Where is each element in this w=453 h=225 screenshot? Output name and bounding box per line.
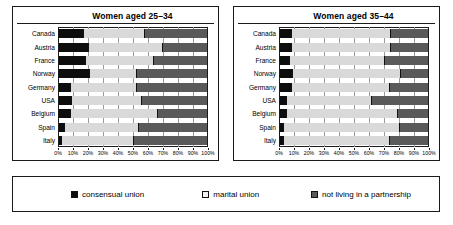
stacked-bar bbox=[59, 43, 207, 52]
bar-segment bbox=[59, 69, 90, 78]
category-label: Italy bbox=[214, 136, 276, 145]
bar-segment bbox=[59, 109, 71, 118]
bar-row: Norway bbox=[280, 69, 428, 78]
chart-panel-women-35-44: Women aged 35–44 CanadaAustriaFranceNorw… bbox=[233, 6, 440, 161]
bar-segment bbox=[84, 29, 145, 38]
category-label: Germany bbox=[214, 83, 276, 92]
stacked-bar bbox=[59, 96, 207, 105]
bar-row: USA bbox=[280, 96, 428, 105]
category-label: Canada bbox=[214, 29, 276, 38]
stacked-bar bbox=[59, 123, 207, 132]
x-tick-label: 80% bbox=[173, 150, 183, 157]
bar-segment bbox=[62, 136, 135, 145]
x-tick-label: 20% bbox=[304, 150, 314, 157]
bar-segment bbox=[284, 136, 389, 145]
bar-segment bbox=[154, 56, 207, 65]
bar-segment bbox=[65, 123, 139, 132]
stacked-bar bbox=[280, 123, 428, 132]
x-tick-label: 60% bbox=[143, 150, 153, 157]
figure: Women aged 25–34 CanadaAustriaFranceNorw… bbox=[0, 0, 453, 225]
bar-segment bbox=[292, 29, 391, 38]
bar-row: Canada bbox=[280, 29, 428, 38]
x-tick-label: 40% bbox=[334, 150, 344, 157]
bar-row: Spain bbox=[59, 123, 207, 132]
bar-row: Germany bbox=[280, 83, 428, 92]
bar-segment bbox=[292, 83, 390, 92]
bar-segment bbox=[287, 96, 371, 105]
category-label: Germany bbox=[0, 83, 55, 92]
x-tick-label: 80% bbox=[394, 150, 404, 157]
bar-segment bbox=[280, 109, 287, 118]
stacked-bar bbox=[59, 109, 207, 118]
bar-segment bbox=[385, 56, 428, 65]
bar-segment bbox=[89, 43, 163, 52]
x-tick-label: 100% bbox=[422, 150, 435, 157]
bar-segment bbox=[290, 56, 385, 65]
x-tick-label: 0% bbox=[54, 150, 62, 157]
stacked-bar bbox=[280, 56, 428, 65]
bar-segment bbox=[59, 83, 71, 92]
x-tick-label: 90% bbox=[188, 150, 198, 157]
bar-segment bbox=[398, 109, 428, 118]
category-label: Spain bbox=[0, 123, 55, 132]
bar-segment bbox=[71, 83, 138, 92]
x-tick-label: 10% bbox=[68, 150, 78, 157]
x-tick-label: 50% bbox=[128, 150, 138, 157]
bar-segment bbox=[401, 69, 428, 78]
category-label: Belgium bbox=[0, 109, 55, 118]
bar-segment bbox=[145, 29, 207, 38]
stacked-bar bbox=[59, 69, 207, 78]
stacked-bar bbox=[280, 69, 428, 78]
bar-segment bbox=[280, 83, 292, 92]
x-tick-label: 70% bbox=[158, 150, 168, 157]
bar-segment bbox=[71, 109, 158, 118]
legend-item: not living in a partnership bbox=[311, 190, 411, 199]
chart-panel-women-25-34: Women aged 25–34 CanadaAustriaFranceNorw… bbox=[12, 6, 219, 161]
bar-segment bbox=[390, 83, 428, 92]
category-label: Italy bbox=[0, 136, 55, 145]
bar-row: Austria bbox=[280, 43, 428, 52]
plot-area-left: CanadaAustriaFranceNorwayGermanyUSABelgi… bbox=[58, 27, 208, 147]
bar-segment bbox=[90, 69, 137, 78]
x-tick-label: 90% bbox=[409, 150, 419, 157]
bar-segment bbox=[59, 96, 72, 105]
x-tick-label: 30% bbox=[98, 150, 108, 157]
bar-segment bbox=[142, 96, 207, 105]
legend-item: consensual union bbox=[71, 190, 144, 199]
chart-title-left: Women aged 25–34 bbox=[51, 11, 214, 22]
title-divider-right bbox=[238, 23, 435, 24]
x-tick-label: 40% bbox=[113, 150, 123, 157]
stacked-bar bbox=[59, 83, 207, 92]
stacked-bar bbox=[280, 83, 428, 92]
stacked-bar bbox=[280, 96, 428, 105]
x-tick-label: 30% bbox=[319, 150, 329, 157]
bar-segment bbox=[391, 43, 428, 52]
bar-row: Germany bbox=[59, 83, 207, 92]
bar-row: Spain bbox=[280, 123, 428, 132]
x-tick-label: 0% bbox=[275, 150, 283, 157]
bar-segment bbox=[134, 136, 207, 145]
legend-label: marital union bbox=[213, 190, 259, 199]
stacked-bar bbox=[59, 29, 207, 38]
bar-segment bbox=[400, 123, 428, 132]
bar-row: USA bbox=[59, 96, 207, 105]
category-label: Austria bbox=[214, 43, 276, 52]
title-divider-left bbox=[17, 23, 214, 24]
bar-row: Canada bbox=[59, 29, 207, 38]
x-tick-label: 60% bbox=[364, 150, 374, 157]
category-label: Spain bbox=[214, 123, 276, 132]
legend-label: not living in a partnership bbox=[322, 190, 411, 199]
bar-segment bbox=[137, 69, 207, 78]
legend-label: consensual union bbox=[82, 190, 144, 199]
bar-segment bbox=[293, 69, 401, 78]
x-tick-label: 100% bbox=[201, 150, 214, 157]
category-label: USA bbox=[214, 96, 276, 105]
stacked-bar bbox=[280, 29, 428, 38]
bar-row: Austria bbox=[59, 43, 207, 52]
bar-segment bbox=[280, 43, 292, 52]
x-axis-left: 0%10%20%30%40%50%60%70%80%90%100% bbox=[58, 148, 208, 160]
bar-segment bbox=[280, 56, 290, 65]
bar-row: Italy bbox=[280, 136, 428, 145]
bar-segment bbox=[287, 109, 398, 118]
bar-segment bbox=[280, 96, 287, 105]
